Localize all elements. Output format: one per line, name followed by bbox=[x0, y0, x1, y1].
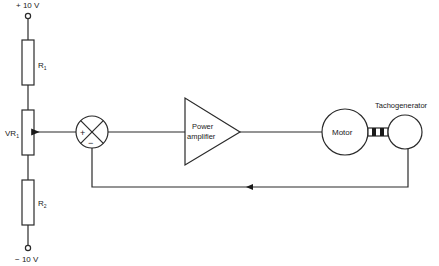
vr1-label: VR bbox=[5, 129, 16, 138]
resistor-r1: R1 bbox=[22, 40, 47, 85]
svg-text:R1: R1 bbox=[38, 61, 47, 71]
potentiometer-vr1: VR1 bbox=[5, 110, 34, 155]
svg-text:R2: R2 bbox=[38, 199, 47, 209]
positive-supply-terminal: + 10 V bbox=[16, 1, 40, 19]
tachogenerator: Tachogenerator bbox=[375, 101, 428, 149]
summing-junction: + − bbox=[76, 116, 108, 148]
motor-label: Motor bbox=[332, 128, 353, 137]
control-diagram: + 10 V R1 VR1 R2 − 10 V + − Power amplif… bbox=[0, 0, 439, 266]
plus-sign: + bbox=[80, 128, 85, 138]
amplifier-label-line2: amplifier bbox=[187, 132, 216, 141]
amplifier-label-line1: Power bbox=[192, 122, 214, 131]
negative-supply-terminal: − 10 V bbox=[15, 245, 39, 264]
minus-sign: − bbox=[88, 138, 93, 148]
feedback-wire bbox=[92, 148, 408, 187]
resistor-r2: R2 bbox=[22, 180, 47, 225]
svg-text:VR1: VR1 bbox=[5, 129, 19, 139]
shaft-coupling bbox=[368, 128, 388, 136]
negative-supply-label: − 10 V bbox=[15, 255, 39, 264]
motor: Motor bbox=[322, 109, 368, 155]
tachogenerator-label: Tachogenerator bbox=[375, 101, 428, 110]
positive-supply-label: + 10 V bbox=[16, 1, 40, 10]
feedback-arrow-icon bbox=[246, 184, 253, 190]
power-amplifier: Power amplifier bbox=[185, 98, 240, 165]
